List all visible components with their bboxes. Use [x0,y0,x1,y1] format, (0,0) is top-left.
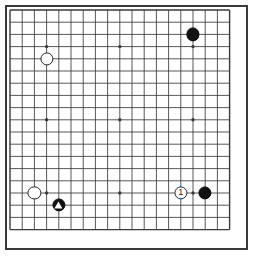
triangle-marker-icon [55,201,63,208]
white-stone-move-one[interactable]: 1 [174,186,187,199]
stone-layer[interactable]: 1 [0,0,253,265]
go-board-diagram: 1 [0,0,253,265]
black-stone-upper-right[interactable] [186,28,199,41]
black-stone-triangle-lower-left[interactable] [52,199,65,212]
white-stone-upper-left[interactable] [40,52,53,65]
black-stone-lower-right[interactable] [199,186,212,199]
stone-move-number: 1 [178,189,183,198]
white-stone-lower-left[interactable] [28,186,41,199]
